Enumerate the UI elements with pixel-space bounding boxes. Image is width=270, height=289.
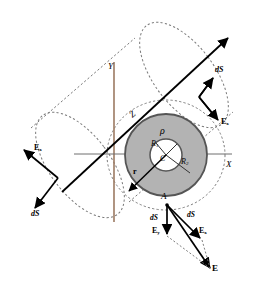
inner-radius-subscript: 1 [156,143,158,148]
ey-label-bottom: Ey [152,227,160,236]
point-a-label: A [161,192,167,201]
ey-subscript-bottom: y [157,230,159,235]
outer-radius-subscript: 2 [186,161,188,166]
outer-radius-label: R2 [181,158,188,167]
vectors-left [24,150,58,208]
vectors-top-right [199,78,218,120]
parallelogram-edge-1 [167,236,210,268]
ex-vector-left [24,150,58,178]
vector-elbow-top-right [199,78,216,118]
ex-label-bottom: Ex [199,227,207,236]
radius-vector-label: r [133,168,137,176]
ex-vector-top-right [199,97,218,120]
ex-label-left: Ex [34,144,42,153]
e-resultant-label: E [212,264,218,273]
ds-vector-left [35,178,58,208]
figure-canvas: Y X Z ρ C R1 R2 r A dS Ex Ex dS dS Ey dS… [0,0,270,289]
axis-y-label: Y [108,62,113,71]
ds-label-diagonal: dS [187,211,195,219]
inner-radius-label: R1 [151,140,158,149]
point-a-dot [165,203,169,207]
ex-subscript-bottom: x [204,230,206,235]
axis-x-label: X [226,160,232,169]
cylinder-top-edge [31,38,135,128]
ds-label-left: dS [31,210,39,218]
charge-density-label: ρ [160,126,165,136]
center-label: C [160,155,165,163]
ex-subscript-top-right: x [226,121,228,126]
gaussian-cylinder-outline [19,7,246,232]
ds-label-vertical: dS [150,214,158,222]
ex-label-top-right: Ex [221,118,229,127]
ds-vector-diagonal [167,205,200,238]
parallelogram-edge-2 [202,240,210,268]
ex-subscript-left: x [39,147,41,152]
ds-label-top-right: dS [215,66,223,74]
